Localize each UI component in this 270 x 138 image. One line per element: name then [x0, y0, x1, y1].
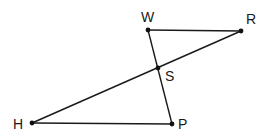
point-p	[170, 122, 175, 127]
label-h: H	[13, 116, 23, 132]
point-w	[146, 28, 151, 33]
label-p: P	[178, 116, 187, 132]
point-s	[156, 66, 161, 71]
segment-rh	[32, 31, 241, 123]
geometry-diagram: W R S H P	[0, 0, 270, 138]
segments	[32, 30, 241, 124]
segment-wr	[148, 30, 241, 31]
point-h	[30, 121, 35, 126]
label-r: R	[246, 11, 256, 27]
segment-hp	[32, 123, 172, 124]
label-w: W	[141, 9, 155, 25]
point-r	[239, 29, 244, 34]
label-s: S	[165, 68, 174, 84]
labels: W R S H P	[13, 9, 256, 132]
